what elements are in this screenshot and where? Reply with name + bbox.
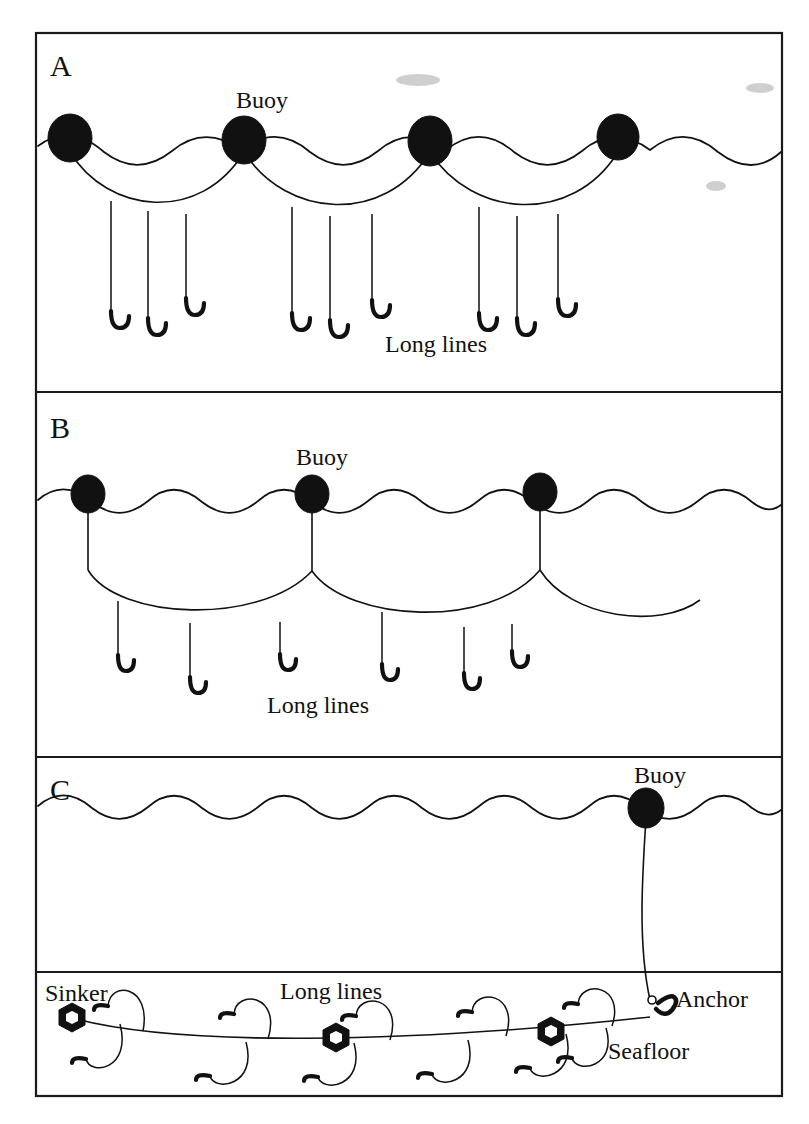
seafloor-hook	[220, 1013, 234, 1018]
panel-a-mainline-2	[244, 152, 430, 205]
panel-a-buoy-1	[48, 114, 92, 162]
seafloor-branch	[234, 999, 271, 1039]
seafloor-branch	[432, 1040, 470, 1082]
seafloor-hook	[342, 1015, 356, 1020]
panel-a-hook	[111, 311, 129, 328]
longlines-label: Long lines	[280, 978, 382, 1004]
panel-b-hook	[382, 664, 398, 680]
panel-b-letter: B	[50, 411, 70, 444]
anchor-label: Anchor	[676, 986, 748, 1012]
seafloor-branch	[572, 1028, 608, 1066]
panel-a-longlines-label: Long lines	[385, 331, 487, 357]
seafloor-hook	[304, 1076, 318, 1081]
panel-a-hook-group-2	[292, 207, 390, 337]
seafloor-branch	[86, 1024, 122, 1068]
longline-gear-figure: A Buoy Long lines	[0, 0, 809, 1124]
panel-b-hook	[280, 654, 296, 670]
seafloor-hook	[516, 1067, 530, 1072]
seafloor-section: Sinker Long lines Anchor Seafloor	[45, 978, 748, 1085]
anchor-icon	[648, 996, 676, 1014]
panel-b-sea-surface	[38, 489, 781, 512]
panel-a-hook-group-1	[111, 201, 204, 335]
seafloor-branch	[108, 990, 144, 1031]
panel-b-buoy-2	[295, 475, 329, 513]
sinker-2	[323, 1023, 349, 1052]
sinker-label: Sinker	[45, 980, 108, 1006]
panel-b-mainline-2	[312, 570, 540, 612]
panel-a-hook	[479, 313, 497, 330]
panel-c-buoy	[628, 788, 664, 828]
panel-c-sea-surface	[38, 795, 781, 818]
scan-speck	[706, 181, 726, 191]
seafloor-hook	[418, 1073, 432, 1078]
panel-a-buoy-2	[222, 116, 266, 164]
panel-a-hook	[372, 300, 390, 317]
panel-b-mainline-3	[540, 570, 700, 616]
seafloor-branch	[356, 1001, 393, 1040]
panel-c-letter: C	[50, 773, 70, 806]
panel-a-buoy-label: Buoy	[236, 87, 288, 113]
panel-b-buoy-3	[523, 473, 557, 511]
panel-a: A Buoy Long lines	[38, 49, 781, 357]
sinker-1	[59, 1003, 85, 1032]
figure-border	[36, 33, 782, 1096]
panel-a-mainline-3	[430, 152, 618, 205]
figure-canvas: A Buoy Long lines	[0, 0, 809, 1124]
panel-a-hook-group-3	[479, 207, 576, 335]
panel-b-hook	[190, 677, 206, 693]
panel-c: C Buoy Sinker Long lines Anchor Seafloor	[38, 762, 781, 1085]
seafloor-hook	[72, 1058, 86, 1063]
panel-a-buoy-3	[408, 116, 452, 166]
panel-b-buoy-1	[71, 475, 105, 513]
panel-b-hook	[118, 655, 134, 671]
seafloor-branch	[210, 1042, 248, 1084]
panel-c-buoy-label: Buoy	[634, 762, 686, 788]
panel-b-buoy-label: Buoy	[296, 444, 348, 470]
panel-a-letter: A	[50, 49, 72, 82]
panel-a-hook	[558, 299, 576, 316]
panel-b-mainline-1	[88, 570, 312, 610]
panel-a-hook	[292, 313, 310, 330]
panel-a-buoy-4	[597, 114, 639, 160]
seafloor-hook	[564, 1003, 578, 1008]
scan-speck	[396, 74, 440, 86]
panel-a-hook	[330, 320, 348, 337]
panel-b-longlines-label: Long lines	[267, 692, 369, 718]
seafloor-hook	[196, 1075, 210, 1080]
panel-a-hook	[148, 318, 166, 335]
panel-b-hook	[512, 651, 528, 667]
panel-b: B Buoy Long lines	[38, 411, 781, 718]
panel-a-hook	[186, 298, 204, 315]
scan-speck	[746, 83, 774, 93]
panel-b-hook	[464, 673, 480, 689]
panel-b-hook-group	[118, 601, 528, 693]
sinker-3	[538, 1017, 564, 1046]
seafloor-hook	[94, 1005, 108, 1010]
seafloor-label: Seafloor	[608, 1038, 689, 1064]
panel-a-hook	[517, 318, 535, 335]
seafloor-hook	[458, 1011, 472, 1016]
